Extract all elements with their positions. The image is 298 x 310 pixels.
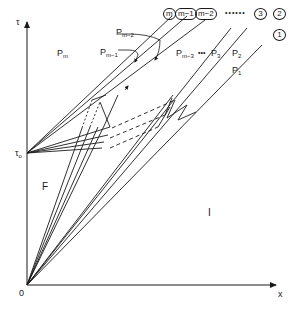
tau0-label: τo bbox=[15, 149, 22, 159]
wave-label-2: 2 bbox=[273, 8, 286, 20]
region-P3: P3 bbox=[211, 49, 220, 59]
wave-diagram-canvas bbox=[0, 0, 298, 310]
reflected-segments-left bbox=[92, 95, 118, 127]
region-P2: P2 bbox=[232, 49, 241, 59]
region-P1: P1 bbox=[232, 66, 241, 76]
axes bbox=[27, 22, 276, 285]
origin-shallow-fan bbox=[27, 28, 262, 285]
steep-fan-dotted bbox=[82, 100, 100, 128]
region-Pm-3: Pm−3 bbox=[176, 49, 194, 59]
tau-axis-label: τ bbox=[16, 18, 20, 27]
region-Pm-2: Pm−2 bbox=[116, 28, 134, 38]
ellipsis-mid: ••• bbox=[198, 49, 205, 56]
wave-label-3: 3 bbox=[254, 8, 267, 20]
region-Pm-1: Pm−1 bbox=[100, 48, 118, 58]
x-axis-label: x bbox=[278, 290, 283, 299]
wave-label-1: 1 bbox=[273, 29, 286, 41]
wave-label-m-1: m−1 bbox=[175, 8, 197, 20]
origin-label: 0 bbox=[19, 289, 24, 298]
region-Pm: Pm bbox=[57, 49, 68, 59]
region-I: I bbox=[208, 208, 211, 218]
wave-label-m-2: m−2 bbox=[195, 8, 217, 20]
wave-label-ellipsis: •••••• bbox=[225, 9, 246, 16]
region-F: F bbox=[42, 182, 48, 192]
leader-lines bbox=[118, 34, 160, 90]
wave-label-m: m bbox=[163, 8, 176, 20]
